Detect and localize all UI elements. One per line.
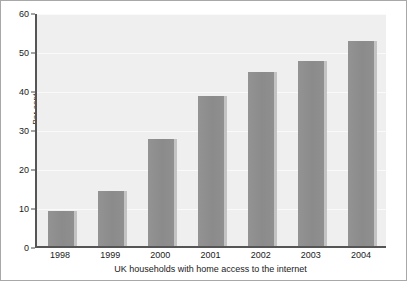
y-axis-tick-label: 20 (19, 165, 29, 175)
y-axis-tick-label: 50 (19, 48, 29, 58)
plot-area (35, 14, 386, 248)
y-axis-tick-label: 10 (19, 204, 29, 214)
x-axis-tick-label: 2000 (150, 250, 170, 260)
y-axis-tick-label: 0 (24, 243, 29, 253)
x-axis-tick-label: 2002 (251, 250, 271, 260)
bar (298, 61, 327, 246)
bar (148, 139, 177, 246)
bar (248, 72, 277, 246)
x-axis-tick-label: 2001 (200, 250, 220, 260)
y-axis-tick-label: 40 (19, 87, 29, 97)
bar-chart-figure: Per cent 0102030405060 19981999200020012… (0, 0, 407, 281)
x-axis-tick-label: 1999 (100, 250, 120, 260)
y-axis-tick-label: 60 (19, 9, 29, 19)
x-axis-tick-label: 2003 (301, 250, 321, 260)
x-axis-title: UK households with home access to the in… (35, 264, 386, 274)
y-axis-tick-labels: 0102030405060 (1, 1, 35, 281)
bar (98, 191, 127, 246)
x-axis-tick-label: 2004 (351, 250, 371, 260)
bar (48, 211, 77, 246)
x-axis-tick-label: 1998 (50, 250, 70, 260)
bar (198, 96, 227, 246)
bar-series (37, 14, 386, 246)
bar (348, 41, 377, 246)
x-axis-tick-labels: 1998199920002001200220032004 (35, 250, 386, 264)
y-axis-tick-label: 30 (19, 126, 29, 136)
